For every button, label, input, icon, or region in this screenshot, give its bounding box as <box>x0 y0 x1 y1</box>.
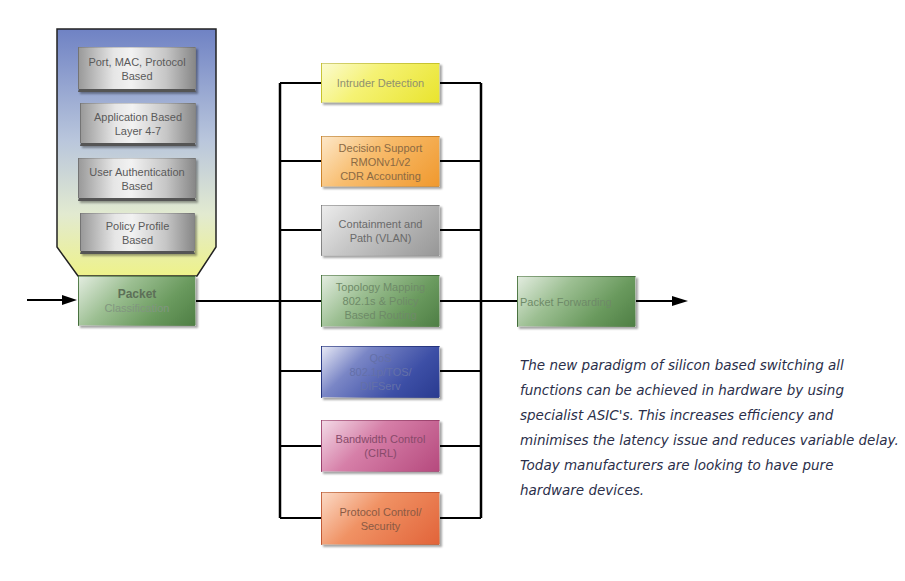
input-arrow-icon <box>27 295 77 305</box>
criteria-port-mac-protocol: Port, MAC, Protocol Based <box>78 47 196 92</box>
packet-classification-subtitle: Classification <box>105 301 170 315</box>
function-protocol-control: Protocol Control/ Security <box>321 492 440 545</box>
criteria-application-based: Application Based Layer 4-7 <box>80 103 196 146</box>
function-decision-support: Decision Support RMONv1/v2 CDR Accountin… <box>321 136 440 187</box>
function-bandwidth-control: Bandwidth Control (CIRL) <box>321 420 440 472</box>
function-containment-path: Containment and Path (VLAN) <box>321 205 440 256</box>
packet-forwarding-box: Packet Forwarding <box>517 276 636 327</box>
diagram-caption: The new paradigm of silicon based switch… <box>520 353 900 503</box>
criteria-policy-profile: Policy Profile Based <box>80 213 195 254</box>
function-topology-mapping: Topology Mapping 802.1s & Policy Based R… <box>321 275 440 327</box>
output-arrow-icon <box>636 296 688 306</box>
packet-classification-title: Packet <box>118 287 157 301</box>
function-qos: QoS 802.1p/TOS/ DIFServ <box>321 346 440 398</box>
packet-classification-box: Packet Classification <box>78 276 196 326</box>
criteria-user-authentication: User Authentication Based <box>78 158 196 201</box>
function-intruder-detection: Intruder Detection <box>321 63 440 103</box>
